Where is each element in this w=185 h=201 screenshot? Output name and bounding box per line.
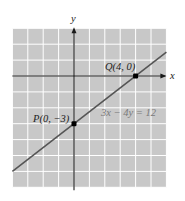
data-point-marker bbox=[72, 121, 77, 126]
point-p-label-text: P(0, −3) bbox=[33, 113, 69, 124]
y-axis-label: y bbox=[71, 14, 76, 25]
point-q-label-text: Q(4, 0) bbox=[105, 61, 135, 72]
point-p-label: P(0, −3) bbox=[33, 114, 69, 125]
coordinate-plane: y x Q(4, 0) P(0, −3) 3x − 4y = 12 bbox=[0, 0, 185, 201]
plot-area bbox=[0, 0, 185, 201]
point-q-label: Q(4, 0) bbox=[105, 62, 135, 73]
data-point-marker bbox=[133, 74, 138, 79]
equation-label: 3x − 4y = 12 bbox=[101, 108, 156, 119]
x-axis-label: x bbox=[170, 71, 175, 82]
